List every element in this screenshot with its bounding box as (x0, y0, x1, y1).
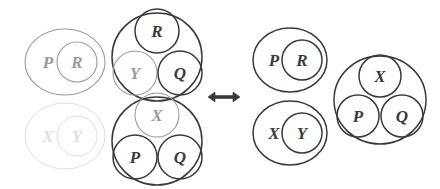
right-xpq-cluster: XPQ (334, 55, 426, 144)
node-label-r: R (70, 53, 82, 72)
node-label-y: Y (297, 124, 309, 143)
node-label-p: P (352, 107, 364, 126)
node-label-x: X (150, 106, 163, 125)
node-label-x: X (267, 124, 280, 143)
node-label-p: P (42, 53, 54, 72)
node-label-y: Y (72, 127, 84, 146)
right-xy-nested-pair: XY (253, 101, 327, 165)
left-ryq-cluster: RYQ (112, 9, 202, 101)
double-headed-arrow (208, 92, 240, 102)
node-label-y: Y (130, 64, 142, 83)
left-xy-nested-pair-outer-circle (25, 103, 105, 169)
node-label-x: X (41, 127, 54, 146)
node-label-r: R (150, 22, 162, 41)
left-xy-nested-pair: XY (25, 103, 105, 169)
node-label-p: P (268, 51, 280, 70)
left-pr-nested-pair: PR (25, 29, 105, 95)
node-label-q: Q (174, 148, 186, 167)
diagram-canvas: PRXYRYQXPQPRXYXPQ (0, 0, 440, 189)
double-headed-arrow-glyph (208, 92, 240, 102)
node-label-r: R (295, 51, 307, 70)
node-label-x: X (373, 67, 386, 86)
equivalence-diagram: PRXYRYQXPQPRXYXPQ (0, 0, 440, 189)
node-label-q: Q (174, 64, 186, 83)
right-pr-nested-pair: PR (253, 28, 327, 92)
node-label-q: Q (396, 107, 408, 126)
right-pr-nested-pair-outer-circle (253, 28, 327, 92)
node-label-p: P (129, 148, 141, 167)
left-xpq-cluster: XPQ (112, 93, 202, 185)
left-pr-nested-pair-outer-circle (25, 29, 105, 95)
right-xy-nested-pair-outer-circle (253, 101, 327, 165)
